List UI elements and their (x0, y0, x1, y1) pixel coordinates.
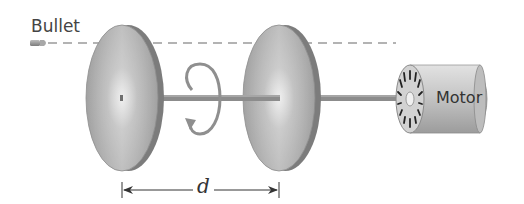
diagram-canvas: Bullet Motor d (0, 0, 524, 204)
disk-1 (86, 25, 164, 171)
bullet-icon (30, 40, 46, 46)
bullet-label: Bullet (31, 16, 80, 36)
distance-label: d (193, 174, 214, 198)
motor-label: Motor (436, 88, 482, 107)
